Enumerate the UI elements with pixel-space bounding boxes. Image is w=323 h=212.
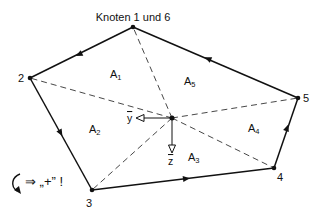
area-label-a3: A3 xyxy=(188,151,200,165)
polygon-diagram: Knoten 1 und 6 2 3 4 5 A1 A2 A3 A4 A5 y … xyxy=(0,0,323,212)
node-label-5: 5 xyxy=(303,92,309,104)
node-label-1: Knoten 1 und 6 xyxy=(96,11,171,23)
axis-label-z: z xyxy=(168,155,173,167)
direction-arrows xyxy=(56,50,291,182)
arrow-edge-3-4-icon xyxy=(183,175,191,182)
rotation-note: ⇒ „+” ! xyxy=(13,174,63,194)
area-label-a4: A4 xyxy=(248,122,260,136)
polygon-edges xyxy=(30,27,298,190)
svg-text:⇒ „+” !: ⇒ „+” ! xyxy=(25,174,63,189)
axis-label-y: y xyxy=(127,112,133,124)
area-label-a1: A1 xyxy=(110,68,122,82)
triangulation-lines xyxy=(30,27,298,190)
node-dots xyxy=(28,25,301,193)
node-label-4: 4 xyxy=(277,171,283,183)
edge-5-1 xyxy=(133,27,298,98)
area-label-a5: A5 xyxy=(184,75,196,89)
arrow-edge-4-5-icon xyxy=(283,123,291,132)
edge-4-5 xyxy=(274,98,298,168)
arrow-edge-2-3-icon xyxy=(56,129,65,138)
area-label-a2: A2 xyxy=(89,123,101,137)
node-label-3: 3 xyxy=(86,197,92,209)
node-label-2: 2 xyxy=(18,72,24,84)
